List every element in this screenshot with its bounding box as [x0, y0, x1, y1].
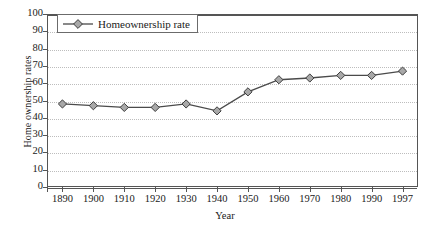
y-axis-ticks: 1009080706050403020100	[0, 14, 43, 187]
legend-label-homeownership-rate: Homeownership rate	[98, 18, 190, 30]
x-tick-mark	[217, 187, 218, 192]
x-axis-title: Year	[30, 210, 420, 221]
x-tick-mark	[155, 187, 156, 192]
data-point-marker	[89, 102, 97, 110]
x-tick-mark	[124, 187, 125, 192]
data-point-marker	[337, 71, 345, 79]
x-tick-mark	[372, 187, 373, 192]
data-point-marker	[368, 71, 376, 79]
data-point-marker	[398, 67, 406, 75]
y-tick-label: 0	[3, 181, 43, 191]
x-tick-mark	[186, 187, 187, 192]
y-tick-label: 80	[3, 43, 43, 53]
data-point-marker	[182, 100, 190, 108]
x-tick-mark	[47, 187, 48, 192]
x-tick-mark	[341, 187, 342, 192]
x-tick-mark	[248, 187, 249, 192]
x-tick-mark	[403, 187, 404, 192]
x-tick-mark	[62, 187, 63, 192]
y-tick-label: 40	[3, 112, 43, 122]
data-point-marker	[151, 103, 159, 111]
data-series-homeownership-rate	[47, 14, 418, 187]
x-tick-mark	[93, 187, 94, 192]
x-tick-label: 1997	[381, 193, 425, 204]
data-point-marker	[213, 107, 221, 115]
x-axis-ticks: 1890190019101920193019401950196019701980…	[47, 187, 418, 209]
x-tick-mark	[279, 187, 280, 192]
data-point-marker	[306, 74, 314, 82]
x-tick-mark	[310, 187, 311, 192]
data-point-marker	[58, 100, 66, 108]
y-tick-label: 60	[3, 77, 43, 87]
y-tick-label: 70	[3, 60, 43, 70]
data-point-marker	[275, 76, 283, 84]
data-point-marker	[244, 88, 252, 96]
y-tick-label: 20	[3, 146, 43, 156]
chart-container: Home ownership rates 1009080706050403020…	[0, 0, 434, 234]
y-tick-label: 30	[3, 129, 43, 139]
y-tick-label: 90	[3, 25, 43, 35]
series-line	[62, 71, 402, 111]
legend-line-marker-icon	[63, 18, 93, 30]
y-tick-label: 10	[3, 164, 43, 174]
y-tick-label: 50	[3, 95, 43, 105]
data-point-marker	[120, 103, 128, 111]
chart-legend: Homeownership rate	[57, 14, 198, 33]
y-tick-label: 100	[3, 8, 43, 18]
